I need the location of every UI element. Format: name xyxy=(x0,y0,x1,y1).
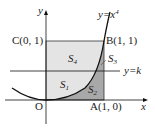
point-c-label: C(0, 1) xyxy=(12,34,44,47)
x-axis-label: x xyxy=(140,100,146,112)
line-label: y=k xyxy=(123,64,142,76)
y-axis-label: y xyxy=(37,4,43,16)
point-a-label: A(1, 0) xyxy=(90,100,122,113)
region-s3-label: S3 xyxy=(108,52,118,66)
point-b-label: B(1, 1) xyxy=(106,34,138,47)
origin-label: O xyxy=(35,100,43,112)
diagram: y x O A(1, 0) B(1, 1) C(0, 1) y=x4 y=k S… xyxy=(0,0,155,128)
y-axis-arrow-icon xyxy=(44,10,48,15)
curve-label: y=x4 xyxy=(97,8,119,20)
